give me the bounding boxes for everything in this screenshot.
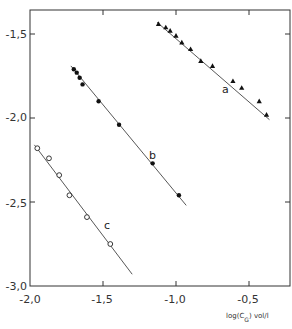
- y-tick-label: -1,5: [6, 28, 27, 41]
- data-point-b: [96, 99, 100, 103]
- data-point-a: [239, 85, 244, 90]
- series-label-a: a: [222, 83, 229, 96]
- data-point-b: [75, 70, 79, 74]
- data-point-a: [156, 21, 161, 26]
- y-tick-label: -2,5: [6, 197, 27, 210]
- data-point-c: [57, 173, 62, 178]
- x-tick-label: -0,5: [237, 293, 258, 306]
- chart-canvas: a b c -1,5 -2,0 -2,5 -3,0 -2,0 -1,5 -1,0…: [0, 0, 292, 329]
- data-point-a: [210, 63, 215, 68]
- x-axis-title: log(CG) vol/l: [226, 312, 269, 323]
- series-label-c: c: [104, 219, 110, 232]
- data-point-b: [72, 67, 76, 71]
- series-label-b: b: [149, 149, 156, 162]
- data-point-a: [264, 112, 269, 117]
- y-tick-label: -3,0: [6, 280, 27, 293]
- data-point-a: [230, 78, 235, 83]
- data-point-a: [188, 47, 193, 52]
- data-point-a: [257, 99, 262, 104]
- x-tick-label: -1,0: [164, 293, 185, 306]
- y-tick-label: -2,0: [6, 111, 27, 124]
- fit-line-b: [71, 66, 186, 205]
- fit-line-c: [34, 145, 132, 274]
- x-axis-ticks: [103, 10, 249, 286]
- data-point-c: [67, 193, 72, 198]
- data-point-b: [177, 193, 181, 197]
- data-point-c: [85, 215, 90, 220]
- data-point-a: [163, 25, 168, 30]
- data-point-a: [173, 33, 178, 38]
- data-point-a: [168, 28, 173, 33]
- data-points: [35, 21, 269, 246]
- data-point-c: [47, 156, 52, 161]
- y-axis-ticks: [30, 34, 290, 202]
- data-point-b: [117, 123, 121, 127]
- data-point-c: [108, 242, 113, 247]
- data-point-b: [80, 82, 84, 86]
- x-tick-label: -2,0: [19, 293, 40, 306]
- plot-frame: [30, 10, 290, 286]
- x-tick-label: -1,5: [91, 293, 112, 306]
- data-point-c: [35, 146, 40, 151]
- data-point-b: [77, 75, 81, 79]
